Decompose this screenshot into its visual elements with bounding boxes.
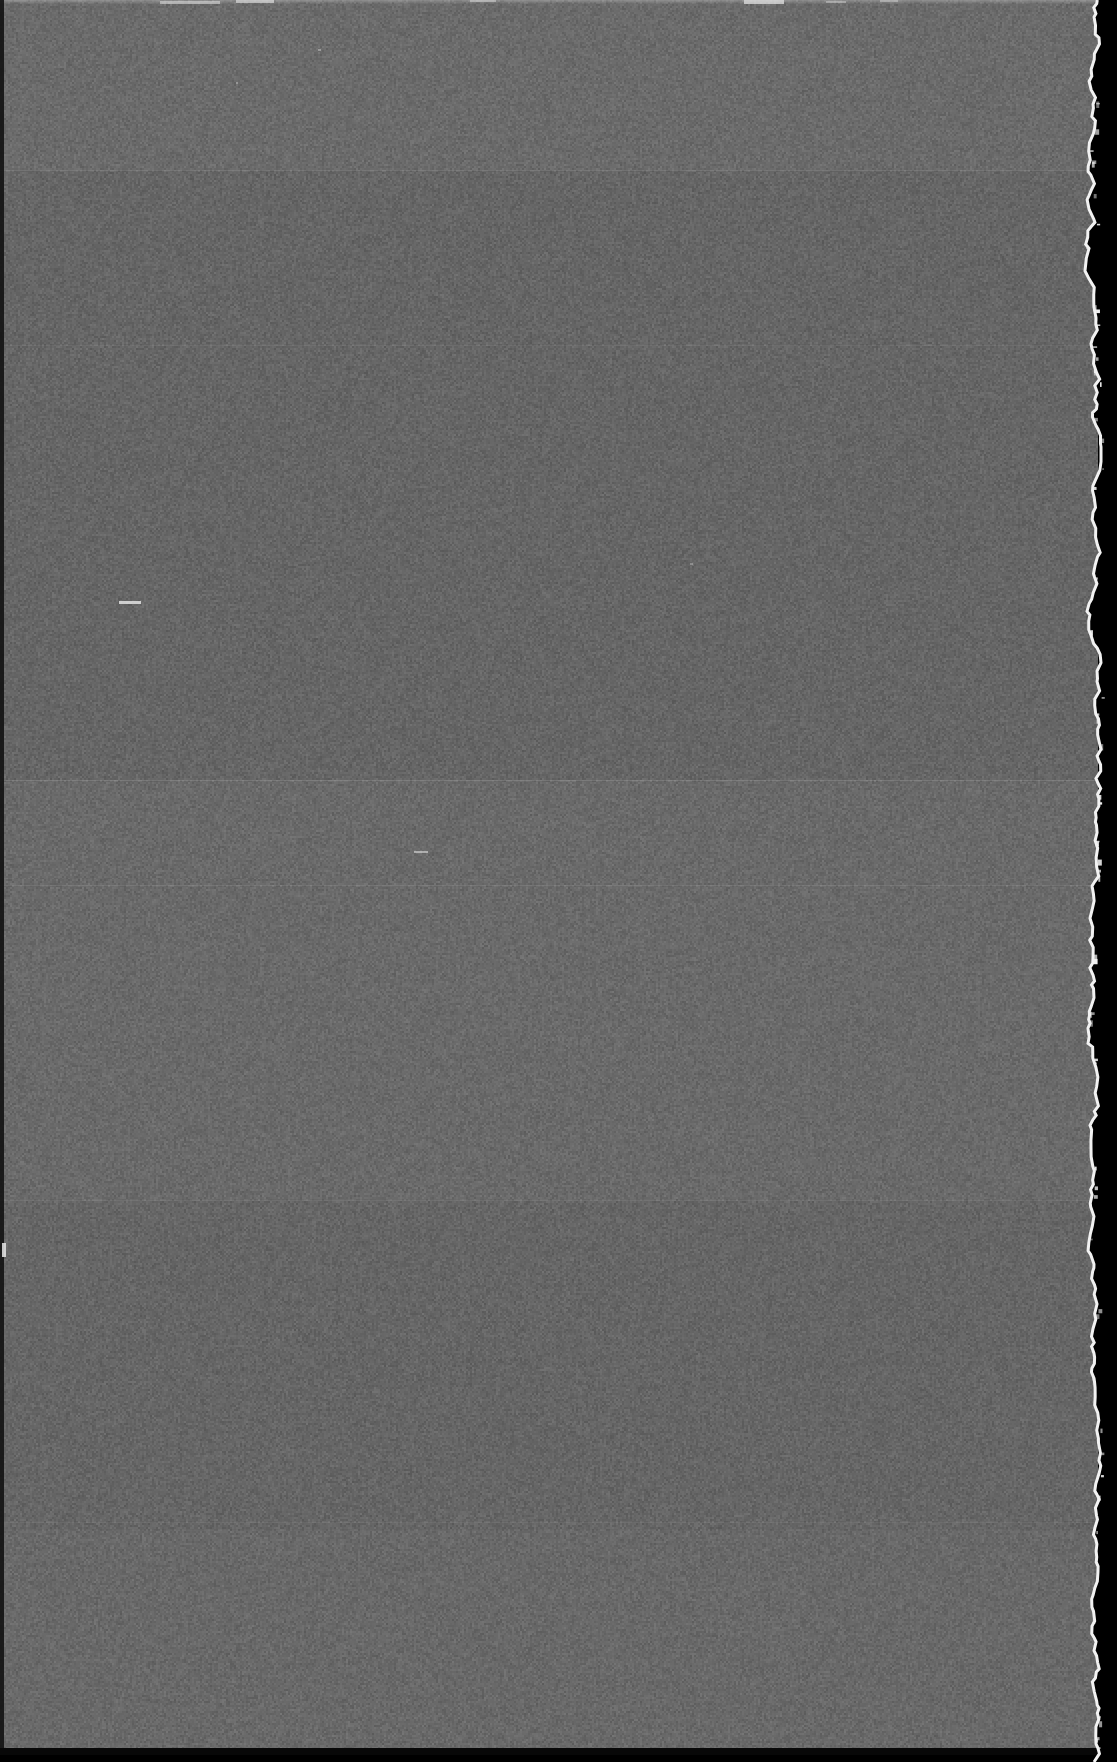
film-grain-layer <box>0 0 1098 1755</box>
bottom-edge-strip <box>0 1748 1098 1755</box>
torn-right-edge-icon <box>1057 0 1117 1762</box>
emulsion-field <box>0 0 1098 1755</box>
left-edge-strip <box>0 0 4 1755</box>
scan-frame: Scanned blank film frame Uniform fogged … <box>0 0 1117 1762</box>
